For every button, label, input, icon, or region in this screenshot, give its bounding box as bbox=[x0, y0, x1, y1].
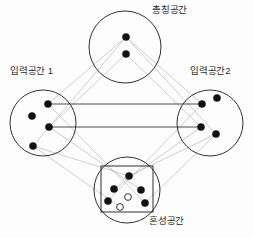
input-space-2-label: 입력공간2 bbox=[190, 66, 230, 76]
element-dot-input1 bbox=[29, 142, 36, 149]
element-dot-blend bbox=[141, 199, 148, 206]
projection-line bbox=[33, 146, 129, 176]
element-dot-input2 bbox=[212, 130, 219, 137]
space-circle-input1 bbox=[10, 90, 76, 156]
network-graphic bbox=[0, 0, 253, 238]
element-dot-blend bbox=[137, 186, 144, 193]
emergent-element-dot-blend bbox=[125, 194, 132, 201]
blended-space-label: 혼성공간 bbox=[149, 216, 184, 226]
projection-line bbox=[108, 104, 202, 201]
element-dot-input1 bbox=[28, 112, 35, 119]
cross-space-mapping-lines-group bbox=[48, 104, 202, 127]
projection-line bbox=[126, 37, 216, 134]
projection-line bbox=[48, 37, 126, 104]
element-dot-input2 bbox=[213, 94, 220, 101]
element-dot-generic bbox=[122, 50, 129, 57]
element-dot-input2 bbox=[198, 100, 205, 107]
projection-line bbox=[48, 104, 145, 203]
generic-space-label: 총칭공간 bbox=[152, 5, 187, 15]
projection-line bbox=[145, 134, 216, 203]
projection-line bbox=[114, 127, 201, 189]
space-circle-blend bbox=[94, 157, 160, 223]
input-space-1-label: 입력공간 1 bbox=[10, 66, 53, 76]
projection-line bbox=[49, 54, 126, 127]
element-dot-generic bbox=[122, 33, 129, 40]
element-dot-input2 bbox=[197, 123, 204, 130]
mental-spaces-group bbox=[10, 11, 243, 223]
space-circle-generic bbox=[89, 11, 161, 83]
element-dot-input1 bbox=[45, 123, 52, 130]
element-dot-blend bbox=[110, 185, 117, 192]
projection-lines-group bbox=[33, 37, 216, 207]
element-dot-input1 bbox=[44, 100, 51, 107]
element-dot-blend bbox=[125, 172, 132, 179]
emergent-element-dot-blend bbox=[117, 204, 124, 211]
space-circle-input2 bbox=[177, 90, 243, 156]
conceptual-blending-diagram: 총칭공간 입력공간 1 입력공간2 혼성공간 bbox=[0, 0, 253, 238]
element-dot-blend bbox=[104, 197, 111, 204]
